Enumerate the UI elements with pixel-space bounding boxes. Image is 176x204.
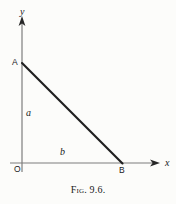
origin-label: O [14, 165, 21, 174]
vertex-label-a: A [12, 58, 18, 67]
hypotenuse-line-AB [22, 63, 123, 164]
figure-container: y x A B O a b Fig. 9.6. [0, 0, 176, 204]
x-axis-label: x [165, 158, 169, 168]
figure-drawing [0, 0, 176, 204]
y-axis-label: y [20, 7, 24, 17]
vertex-label-b: B [119, 166, 125, 175]
side-label-a: a [26, 108, 31, 118]
figure-caption: Fig. 9.6. [0, 184, 176, 195]
side-label-b: b [60, 147, 65, 157]
